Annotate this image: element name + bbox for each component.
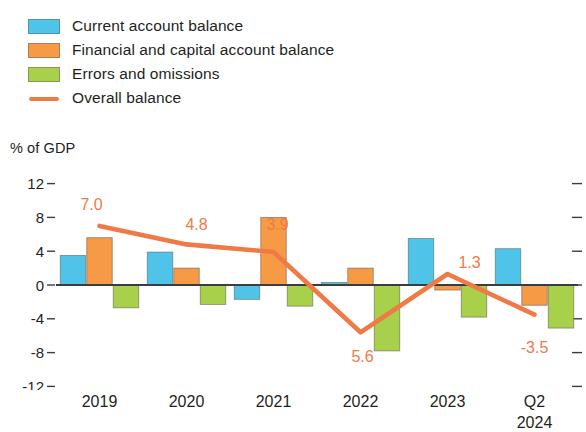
- legend-item-financial-and-capital-account-balance: Financial and capital account balance: [28, 38, 548, 62]
- y-tick-label: -4: [31, 310, 44, 327]
- y-tick-label: -8: [31, 344, 44, 361]
- chart-plot-area: 12840-4-8-12 7.04.83.95.61.3-3.5: [0, 165, 586, 390]
- bar: [522, 285, 548, 305]
- bar: [495, 249, 521, 285]
- data-label: 7.0: [80, 196, 102, 213]
- y-tick-label: 4: [36, 243, 44, 260]
- legend-swatch-financial-and-capital-account-balance: [28, 43, 60, 58]
- bar-group: [60, 238, 139, 308]
- bar: [60, 255, 86, 285]
- legend-label-errors-and-omissions: Errors and omissions: [72, 66, 220, 82]
- chart-legend: Current account balance Financial and ca…: [28, 14, 548, 110]
- legend-item-current-account-balance: Current account balance: [28, 14, 548, 38]
- bar: [87, 238, 113, 285]
- legend-swatch-current-account-balance: [28, 19, 60, 34]
- y-tick-label: 8: [36, 209, 44, 226]
- x-axis-labels: 20192020202120222023Q22024: [0, 385, 586, 432]
- data-label: -3.5: [521, 339, 549, 356]
- bar: [174, 268, 200, 285]
- x-tick-label: Q2: [524, 393, 545, 410]
- bar: [548, 285, 574, 328]
- x-tick-label: 2023: [430, 393, 466, 410]
- x-tick-label: 2020: [169, 393, 205, 410]
- legend-item-errors-and-omissions: Errors and omissions: [28, 62, 548, 86]
- legend-label-financial-and-capital-account-balance: Financial and capital account balance: [72, 42, 334, 58]
- data-label: 4.8: [185, 216, 207, 233]
- x-tick-label: 2024: [517, 414, 553, 431]
- y-tick-label: 12: [27, 175, 44, 192]
- bar: [234, 285, 260, 299]
- legend-item-overall-balance: Overall balance: [28, 86, 548, 110]
- data-label: 1.3: [458, 254, 480, 271]
- data-label: 5.6: [351, 348, 373, 365]
- x-axis-svg: 20192020202120222023Q22024: [0, 385, 586, 432]
- y-tick-label: 0: [36, 277, 44, 294]
- bar: [348, 268, 374, 285]
- bar-group: [147, 252, 226, 304]
- bar: [113, 285, 139, 308]
- bar-group: [408, 239, 487, 318]
- x-tick-label: 2022: [343, 393, 379, 410]
- x-tick-label: 2019: [82, 393, 118, 410]
- bar: [408, 239, 434, 285]
- data-label: 3.9: [266, 216, 288, 233]
- bar: [200, 285, 226, 304]
- y-axis-title: % of GDP: [10, 140, 75, 156]
- chart-svg: 12840-4-8-12 7.04.83.95.61.3-3.5: [0, 165, 586, 390]
- bar: [287, 285, 313, 306]
- bar: [147, 252, 173, 285]
- legend-label-overall-balance: Overall balance: [72, 90, 181, 106]
- x-tick-label: 2021: [256, 393, 292, 410]
- y-axis-ticks-left: 12840-4-8-12: [22, 175, 55, 390]
- legend-label-current-account-balance: Current account balance: [72, 18, 243, 34]
- legend-line-overall-balance: [28, 91, 60, 106]
- legend-swatch-errors-and-omissions: [28, 67, 60, 82]
